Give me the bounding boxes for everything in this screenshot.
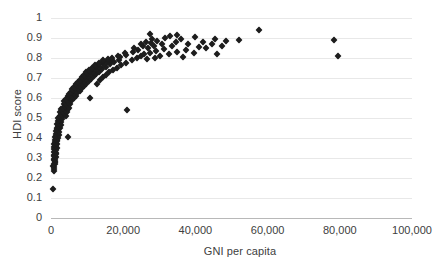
x-tick-label: 0 [11, 224, 91, 236]
gridline-y [51, 178, 412, 179]
data-point [123, 106, 130, 113]
y-tick-label: 0.7 [8, 71, 42, 83]
gridline-y [51, 98, 412, 99]
plot-area [51, 18, 412, 218]
x-tick-label: 40,000 [155, 224, 235, 236]
data-point [50, 185, 57, 192]
data-point [179, 53, 186, 60]
x-tick-label: 100,000 [372, 224, 444, 236]
gridline-y [51, 198, 412, 199]
gridline-y [51, 118, 412, 119]
y-tick-label: 0.5 [8, 111, 42, 123]
y-tick-label: 0.8 [8, 51, 42, 63]
x-tick-label: 60,000 [228, 224, 308, 236]
y-tick-label: 0.3 [8, 151, 42, 163]
x-axis-title: GNI per capita [170, 245, 310, 257]
gridline-y [51, 158, 412, 159]
gridline-y [51, 18, 412, 19]
data-point [65, 134, 72, 141]
y-tick-label: 0.6 [8, 91, 42, 103]
scatter-chart: HDI score GNI per capita 00.10.20.30.40.… [0, 0, 444, 268]
y-tick-label: 0.9 [8, 31, 42, 43]
data-point [190, 49, 197, 56]
y-tick-label: 1 [8, 11, 42, 23]
data-point [255, 27, 262, 34]
gridline-y [51, 38, 412, 39]
x-tick-label: 20,000 [83, 224, 163, 236]
data-point [192, 34, 199, 41]
gridline-y [51, 138, 412, 139]
data-point [212, 35, 219, 42]
x-axis-line [51, 218, 412, 219]
data-point [183, 46, 190, 53]
y-tick-label: 0 [8, 211, 42, 223]
y-tick-label: 0.1 [8, 191, 42, 203]
data-point [86, 95, 93, 102]
y-tick-label: 0.2 [8, 171, 42, 183]
data-point [203, 45, 210, 52]
data-point [165, 50, 172, 57]
data-point [174, 48, 181, 55]
x-tick-label: 80,000 [300, 224, 380, 236]
data-point [214, 50, 221, 57]
y-tick-label: 0.4 [8, 131, 42, 143]
